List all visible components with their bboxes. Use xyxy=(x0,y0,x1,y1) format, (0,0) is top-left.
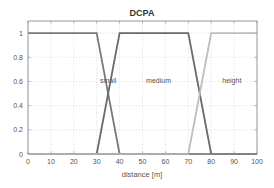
x-tick-label: 40 xyxy=(116,158,124,165)
x-tick-label: 100 xyxy=(251,158,263,165)
x-tick-label: 90 xyxy=(230,158,238,165)
dcpa-membership-chart: DCPA smallmediumheight 01020304050607080… xyxy=(0,0,274,188)
x-tick-label: 70 xyxy=(184,158,192,165)
x-axis-label: distance [m] xyxy=(122,170,162,179)
y-tick-label: 0.2 xyxy=(13,126,23,133)
x-tick-label: 80 xyxy=(207,158,215,165)
x-tick-label: 0 xyxy=(26,158,30,165)
y-tick-label: 0.4 xyxy=(13,102,23,109)
x-tick-label: 50 xyxy=(139,158,147,165)
x-tick-label: 30 xyxy=(93,158,101,165)
y-tick-label: 0 xyxy=(19,151,23,158)
x-tick-label: 60 xyxy=(162,158,170,165)
annotation-small: small xyxy=(100,77,117,84)
x-tick-label: 10 xyxy=(47,158,55,165)
annotation-height: height xyxy=(222,77,241,85)
y-tick-label: 0.8 xyxy=(13,54,23,61)
y-tick-labels: 00.20.40.60.81 xyxy=(13,30,23,158)
y-tick-label: 1 xyxy=(19,30,23,37)
grid-lines xyxy=(28,21,257,154)
chart-title: DCPA xyxy=(130,8,155,18)
x-tick-labels: 0102030405060708090100 xyxy=(26,158,263,165)
y-tick-label: 0.6 xyxy=(13,78,23,85)
annotation-medium: medium xyxy=(146,77,171,84)
x-tick-label: 20 xyxy=(70,158,78,165)
